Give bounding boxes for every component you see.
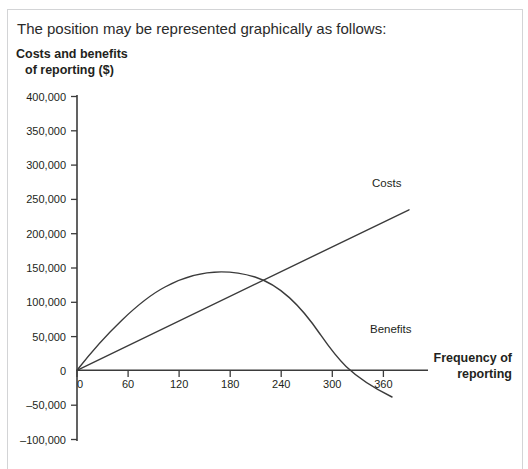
y-tick-label: –100,000 xyxy=(20,434,66,446)
y-tick-label: 150,000 xyxy=(26,262,66,274)
y-tick-label: 50,000 xyxy=(32,331,66,343)
costs-series-label: Costs xyxy=(372,177,402,189)
x-tick-label: 300 xyxy=(323,378,341,390)
y-tick-label: 250,000 xyxy=(26,193,66,205)
x-tick-label: 180 xyxy=(221,378,239,390)
y-tick-label: 100,000 xyxy=(26,296,66,308)
x-tick-label: 0 xyxy=(77,378,83,390)
x-tick-label: 60 xyxy=(122,378,134,390)
x-tick-label: 120 xyxy=(170,378,188,390)
x-axis-title: Frequency of reporting xyxy=(434,351,513,381)
y-tick-label: –50,000 xyxy=(26,399,66,411)
x-axis-tick-labels: 0 60 120 180 240 300 360 xyxy=(77,378,393,390)
x-axis-title-line-1: Frequency of xyxy=(434,351,513,365)
x-axis-title-line-2: reporting xyxy=(457,367,512,381)
y-tick-label: 200,000 xyxy=(26,228,66,240)
y-tick-label: 0 xyxy=(60,365,66,377)
y-axis-tick-labels: 400,000 350,000 300,000 250,000 200,000 … xyxy=(20,91,66,446)
y-tick-label: 350,000 xyxy=(26,125,66,137)
y-tick-label: 400,000 xyxy=(26,91,66,103)
x-axis-ticks xyxy=(77,370,383,377)
costs-series-line xyxy=(77,210,409,370)
benefits-series-label: Benefits xyxy=(370,323,412,335)
x-tick-label: 240 xyxy=(272,378,290,390)
y-tick-label: 300,000 xyxy=(26,159,66,171)
